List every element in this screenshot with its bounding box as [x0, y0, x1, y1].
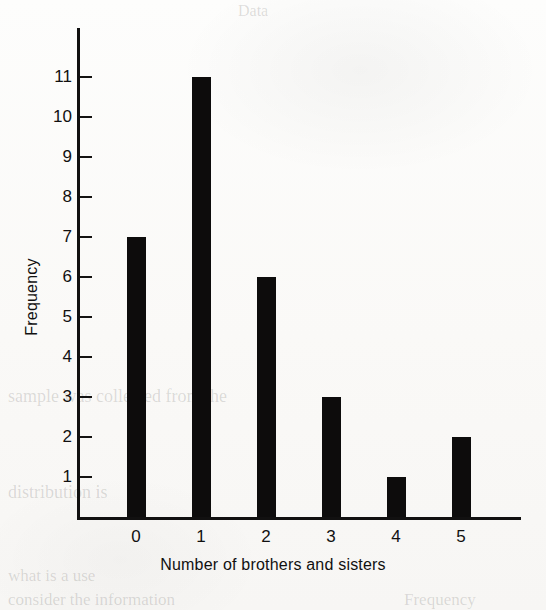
- y-axis-tick: [80, 476, 92, 478]
- y-axis-tick: [80, 276, 92, 278]
- y-axis-tick-label: 3: [46, 388, 72, 405]
- bar: [322, 397, 341, 517]
- y-axis-tick-label: 9: [46, 148, 72, 165]
- chart-page: sample was collected from thedistributio…: [0, 0, 546, 610]
- y-axis-tick-label: 8: [46, 188, 72, 205]
- x-axis-tick-label: 1: [186, 527, 216, 547]
- y-axis-tick: [80, 356, 92, 358]
- y-axis-tick: [80, 436, 92, 438]
- x-axis-tick-label: 3: [316, 527, 346, 547]
- y-axis-tick-label: 11: [46, 68, 72, 85]
- x-axis-title: Number of brothers and sisters: [0, 556, 546, 574]
- y-axis-tick: [80, 156, 92, 158]
- bar-chart: 1234567891011 012345 Frequency Number of…: [0, 0, 546, 610]
- x-axis-line: [77, 517, 521, 520]
- y-axis-tick-label: 1: [46, 468, 72, 485]
- y-axis-tick-label: 4: [46, 348, 72, 365]
- y-axis-tick-label: 2: [46, 428, 72, 445]
- x-axis-tick-label: 2: [251, 527, 281, 547]
- bar: [127, 237, 146, 517]
- bar: [257, 277, 276, 517]
- x-axis-tick-label: 4: [381, 527, 411, 547]
- x-axis-tick-label: 5: [446, 527, 476, 547]
- y-axis-tick: [80, 396, 92, 398]
- x-axis-tick-label: 0: [121, 527, 151, 547]
- y-axis-tick-label: 5: [46, 308, 72, 325]
- bar: [192, 77, 211, 517]
- y-axis-tick-label: 6: [46, 268, 72, 285]
- y-axis-tick: [80, 116, 92, 118]
- y-axis-title: Frequency: [23, 227, 41, 367]
- bar: [387, 477, 406, 517]
- y-axis-tick: [80, 196, 92, 198]
- y-axis-tick: [80, 316, 92, 318]
- y-axis-tick: [80, 236, 92, 238]
- y-axis-tick-label: 7: [46, 228, 72, 245]
- bar: [452, 437, 471, 517]
- y-axis-line: [77, 28, 80, 520]
- y-axis-tick-label: 10: [46, 108, 72, 125]
- y-axis-tick: [80, 76, 92, 78]
